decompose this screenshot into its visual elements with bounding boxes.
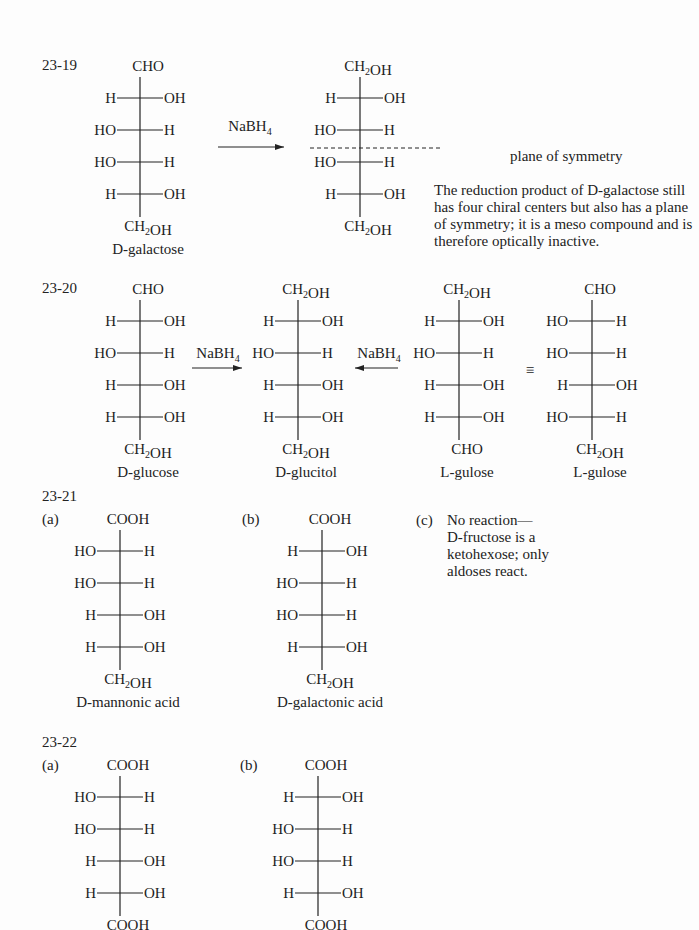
left-substituent: H — [557, 377, 568, 393]
right-substituent: H — [616, 345, 627, 361]
part-c-text: No reaction— D-fructose is a ketohexose;… — [447, 512, 549, 580]
top-group: CHO — [132, 58, 164, 74]
left-substituent: HO — [276, 575, 298, 591]
left-substituent: H — [105, 313, 116, 329]
compound-name: L-gulose — [573, 464, 627, 480]
right-substituent: OH — [346, 639, 368, 655]
left-substituent: HO — [546, 345, 568, 361]
bottom-group: CHO — [451, 441, 483, 457]
reaction-arrow-right — [192, 365, 242, 371]
right-substituent: H — [164, 345, 175, 361]
left-substituent: H — [105, 377, 116, 393]
right-substituent: OH — [384, 90, 406, 106]
right-substituent: OH — [346, 543, 368, 559]
top-group: CH2OH — [282, 281, 330, 301]
bottom-group: COOH — [305, 917, 348, 930]
part-c-line-2: D-fructose is a — [447, 529, 549, 546]
left-substituent: H — [105, 90, 116, 106]
left-substituent: H — [263, 377, 274, 393]
right-substituent: H — [144, 575, 155, 591]
meso-explanation-note: The reduction product of D-galactose sti… — [434, 182, 699, 250]
left-substituent: H — [263, 313, 274, 329]
left-substituent: HO — [74, 575, 96, 591]
solutions-figure: CHOHOHHOHHOHHOHCH2OHD-galactoseCH2OHHOHH… — [0, 0, 699, 930]
right-substituent: OH — [164, 90, 186, 106]
right-substituent: H — [616, 409, 627, 425]
right-substituent: OH — [384, 186, 406, 202]
left-substituent: H — [287, 543, 298, 559]
top-group: CH2OH — [443, 281, 491, 301]
compound-name: D-galactonic acid — [277, 694, 384, 710]
part-b-letter-23-22: (b) — [240, 758, 258, 773]
compound-name: D-glucitol — [275, 464, 337, 480]
right-substituent: OH — [164, 186, 186, 202]
fischer-d-mannonic-acid: COOHHOHHOHHOHHOHCH2OHD-mannonic acid — [74, 511, 180, 710]
problem-number-23-22: 23-22 — [42, 735, 77, 750]
right-substituent: H — [144, 821, 155, 837]
right-substituent: OH — [144, 639, 166, 655]
compound-name: D-glucose — [117, 464, 179, 480]
bottom-group: CH2OH — [104, 671, 152, 691]
bottom-group: CH2OH — [282, 441, 330, 461]
fischer-d-glucitol: CH2OHHOHHOHHOHHOHCH2OHD-glucitol — [252, 281, 344, 480]
left-substituent: H — [85, 853, 96, 869]
right-substituent: H — [164, 154, 175, 170]
top-group: CHO — [132, 281, 164, 297]
right-substituent: OH — [144, 853, 166, 869]
right-substituent: H — [164, 122, 175, 138]
part-a-letter-23-21: (a) — [42, 512, 59, 527]
left-substituent: H — [287, 639, 298, 655]
problem-number-23-19: 23-19 — [42, 58, 77, 73]
right-substituent: OH — [322, 409, 344, 425]
right-substituent: H — [144, 789, 155, 805]
left-substituent: H — [325, 90, 336, 106]
fischer-l-gulose: CHOHOHHOHHOHHOHCH2OHL-gulose — [546, 281, 638, 480]
fischer-d-galactonic-acid: COOHHOHHOHHOHHOHCH2OHD-galactonic acid — [276, 511, 383, 710]
right-substituent: H — [342, 821, 353, 837]
reaction-arrow-left — [355, 365, 398, 371]
bottom-group: CH2OH — [306, 671, 354, 691]
right-substituent: OH — [164, 409, 186, 425]
right-substituent: H — [616, 313, 627, 329]
bottom-group: CH2OH — [124, 218, 172, 238]
left-substituent: HO — [272, 821, 294, 837]
left-substituent: HO — [546, 409, 568, 425]
left-substituent: H — [325, 186, 336, 202]
right-substituent: OH — [483, 377, 505, 393]
right-substituent: OH — [164, 377, 186, 393]
left-substituent: H — [105, 186, 116, 202]
left-substituent: HO — [94, 345, 116, 361]
right-substituent: OH — [144, 885, 166, 901]
left-substituent: H — [424, 313, 435, 329]
part-c-no-reaction: (c) — [416, 512, 433, 529]
right-substituent: OH — [164, 313, 186, 329]
reagent-nabh4: NaBH4 — [228, 118, 271, 137]
left-substituent: H — [85, 639, 96, 655]
left-substituent: H — [424, 409, 435, 425]
part-a-letter-23-22: (a) — [42, 758, 59, 773]
left-substituent: HO — [276, 607, 298, 623]
left-substituent: HO — [94, 154, 116, 170]
left-substituent: HO — [74, 789, 96, 805]
compound-name: L-gulose — [440, 464, 494, 480]
part-c-line-4: aldoses react. — [447, 563, 549, 580]
left-substituent: H — [283, 789, 294, 805]
top-group: COOH — [309, 511, 352, 527]
reagent-nabh4-left: NaBH4 — [196, 345, 239, 364]
left-substituent: HO — [314, 122, 336, 138]
reagent-nabh4-right: NaBH4 — [357, 345, 400, 364]
compound-name: D-galactose — [112, 241, 184, 257]
bottom-group: CH2OH — [124, 441, 172, 461]
right-substituent: OH — [322, 377, 344, 393]
fischer-d-glucaric-a: COOHHOHHOHHOHHOHCOOH — [74, 757, 166, 930]
fischer-d-glucose: CHOHOHHOHHOHHOHCH2OHD-glucose — [94, 281, 186, 480]
compound-name: D-mannonic acid — [76, 694, 180, 710]
bottom-group: CH2OH — [344, 218, 392, 238]
left-substituent: HO — [413, 345, 435, 361]
right-substituent: H — [384, 154, 395, 170]
right-substituent: OH — [483, 409, 505, 425]
part-b-letter-23-21: (b) — [242, 512, 260, 527]
left-substituent: H — [424, 377, 435, 393]
left-substituent: HO — [546, 313, 568, 329]
right-substituent: H — [346, 607, 357, 623]
